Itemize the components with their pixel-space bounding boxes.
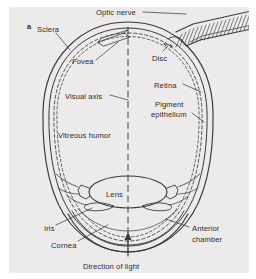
label-direction-of-light: Direction of light bbox=[83, 262, 139, 271]
label-leader-lines bbox=[56, 12, 204, 241]
label-iris: Iris bbox=[44, 224, 55, 233]
ciliary-body-right bbox=[166, 185, 178, 199]
label-anterior: Anterior bbox=[192, 224, 219, 233]
fovea-marker-box bbox=[98, 33, 130, 46]
leader-sclera bbox=[56, 33, 70, 50]
label-fovea: Fovea bbox=[72, 57, 94, 66]
label-vitreous-humor: Vitreous humor bbox=[58, 131, 111, 140]
label-retina: Retina bbox=[154, 81, 177, 90]
label-cornea: Cornea bbox=[51, 241, 77, 250]
panel-label-a: a bbox=[27, 22, 31, 31]
leader-visual-axis bbox=[110, 95, 128, 100]
leader-optic-nerve bbox=[143, 12, 186, 14]
label-sclera: Sclera bbox=[37, 25, 59, 34]
ciliary-body-left bbox=[78, 185, 90, 199]
label-chamber: chamber bbox=[192, 235, 222, 244]
iris-flap-right bbox=[142, 203, 172, 211]
label-optic-nerve: Optic nerve bbox=[96, 8, 136, 17]
label-pigment: Pigment bbox=[155, 100, 184, 109]
label-disc: Disc bbox=[152, 54, 167, 63]
label-epithelium: epithelium bbox=[151, 110, 187, 119]
eye-anatomy-figure: a Optic nerve Sclera Fovea Disc Visual a… bbox=[0, 0, 256, 279]
label-visual-axis: Visual axis bbox=[65, 92, 102, 101]
label-lens: Lens bbox=[106, 190, 123, 199]
optic-nerve-sheath-inner bbox=[190, 24, 256, 42]
optic-nerve-hatching bbox=[176, 13, 254, 47]
